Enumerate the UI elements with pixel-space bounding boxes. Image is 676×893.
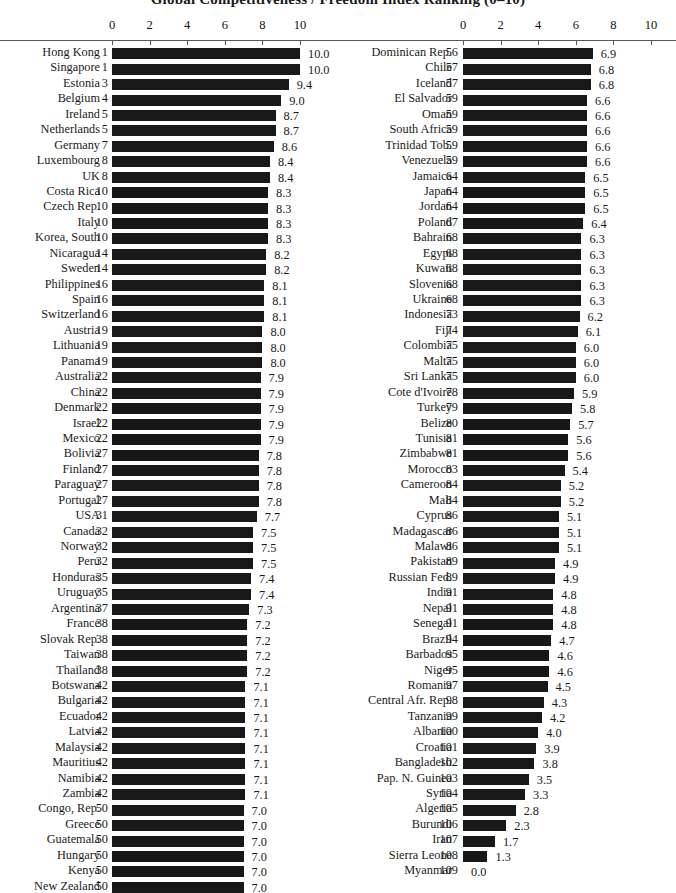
bar-row[interactable]: Bahrain686.3 [336,231,676,246]
bar-row[interactable]: Fiji746.1 [336,324,676,339]
bar[interactable] [463,249,581,260]
bar[interactable] [463,681,548,692]
bar-row[interactable]: Malawi865.1 [336,540,676,555]
bar-row[interactable]: Myanmar1090.0 [336,864,676,879]
bar-row[interactable]: Ukraine686.3 [336,293,676,308]
bar-row[interactable]: Mali845.2 [336,494,676,509]
bar-row[interactable]: Venezuela596.6 [336,154,676,169]
bar-row[interactable]: Poland676.4 [336,216,676,231]
bar-row[interactable]: Uruguay357.4 [0,586,336,601]
bar[interactable] [112,465,259,476]
bar-row[interactable]: Romania974.5 [336,679,676,694]
bar[interactable] [463,434,568,445]
bar-row[interactable]: Estonia39.4 [0,77,336,92]
bar-row[interactable]: Tanzania994.2 [336,710,676,725]
bar[interactable] [463,789,525,800]
bar[interactable] [112,249,266,260]
bar[interactable] [463,774,529,785]
bar-row[interactable]: Turkey795.8 [336,401,676,416]
bar-row[interactable]: Honduras357.4 [0,571,336,586]
bar-row[interactable]: Netherlands58.7 [0,123,336,138]
bar-row[interactable]: Peru327.5 [0,555,336,570]
bar[interactable] [463,635,551,646]
bar[interactable] [463,805,516,816]
bar[interactable] [112,882,244,893]
bar[interactable] [463,388,574,399]
bar[interactable] [112,820,244,831]
bar[interactable] [112,851,244,862]
bar-row[interactable]: New Zealand507.0 [0,880,336,893]
bar-row[interactable]: Czech Rep.108.3 [0,200,336,215]
bar[interactable] [112,604,249,615]
bar[interactable] [112,450,259,461]
bar[interactable] [463,295,581,306]
bar-row[interactable]: Botswana427.1 [0,679,336,694]
bar-row[interactable]: Belgium49.0 [0,92,336,107]
bar-row[interactable]: Pap. N. Guinea1033.5 [336,772,676,787]
bar[interactable] [112,558,253,569]
bar-row[interactable]: Canada327.5 [0,525,336,540]
bar[interactable] [112,866,244,877]
bar[interactable] [463,203,585,214]
bar[interactable] [112,79,289,90]
bar[interactable] [463,172,585,183]
bar[interactable] [463,743,536,754]
bar-row[interactable]: Australia227.9 [0,370,336,385]
bar[interactable] [463,496,561,507]
bar[interactable] [463,712,542,723]
bar[interactable] [112,233,268,244]
bar-row[interactable]: Senegal914.8 [336,617,676,632]
bar[interactable] [112,619,247,630]
bar[interactable] [112,357,262,368]
bar-row[interactable]: Argentina377.3 [0,602,336,617]
bar-row[interactable]: Thailand387.2 [0,664,336,679]
bar[interactable] [112,635,247,646]
bar[interactable] [463,125,587,136]
bar[interactable] [463,79,591,90]
bar[interactable] [463,342,576,353]
bar[interactable] [463,372,576,383]
bar[interactable] [112,774,245,785]
bar[interactable] [112,419,261,430]
bar-row[interactable]: Austria198.0 [0,324,336,339]
bar[interactable] [112,187,268,198]
bar[interactable] [112,95,281,106]
bar[interactable] [112,727,245,738]
bar-row[interactable]: Taiwan387.2 [0,648,336,663]
bar[interactable] [112,789,245,800]
bar-row[interactable]: Malta756.0 [336,355,676,370]
bar-row[interactable]: Iran1071.7 [336,833,676,848]
bar-row[interactable]: Singapore110.0 [0,61,336,76]
bar[interactable] [463,604,553,615]
bar-row[interactable]: Switzerland168.1 [0,308,336,323]
bar-row[interactable]: Bolivia277.8 [0,447,336,462]
bar-row[interactable]: Ecuador427.1 [0,710,336,725]
bar[interactable] [463,650,549,661]
bar[interactable] [463,110,587,121]
bar-row[interactable]: Italy108.3 [0,216,336,231]
bar[interactable] [463,311,580,322]
bar[interactable] [112,573,251,584]
bar-row[interactable]: Namibia427.1 [0,772,336,787]
bar-row[interactable]: Slovenia686.3 [336,278,676,293]
bar-row[interactable]: Mexico227.9 [0,432,336,447]
bar-row[interactable]: Cote d'Ivoire785.9 [336,386,676,401]
bar[interactable] [112,172,270,183]
bar-row[interactable]: Algeria1052.8 [336,802,676,817]
bar-row[interactable]: Iceland576.8 [336,77,676,92]
bar[interactable] [463,403,572,414]
bar-row[interactable]: Albania1004.0 [336,725,676,740]
bar-row[interactable]: Russian Fed.894.9 [336,571,676,586]
bar-row[interactable]: Madagascar865.1 [336,525,676,540]
bar[interactable] [112,48,300,59]
bar[interactable] [112,388,261,399]
bar-row[interactable]: Kenya507.0 [0,864,336,879]
bar[interactable] [463,95,587,106]
bar[interactable] [112,697,245,708]
bar-row[interactable]: Dominican Rep.566.9 [336,46,676,61]
bar-row[interactable]: Sierra Leone1081.3 [336,849,676,864]
bar-row[interactable]: Philippines168.1 [0,278,336,293]
bar-row[interactable]: Oman596.6 [336,108,676,123]
bar-row[interactable]: UK88.4 [0,170,336,185]
bar[interactable] [463,573,555,584]
